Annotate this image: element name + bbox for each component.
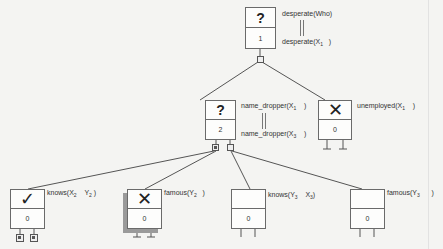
status-succeeded-icon: ✓ [11, 190, 44, 209]
famous-y3-node[interactable]: 0 [350, 189, 385, 229]
unification-equals [300, 20, 304, 36]
status-unknown-icon: ? [246, 8, 275, 28]
connector-icon[interactable] [30, 234, 38, 242]
canvas-edge-divider [428, 0, 429, 249]
node-count: 0 [232, 209, 265, 228]
connector-icon[interactable] [16, 234, 24, 242]
unification-equals [262, 113, 266, 129]
goal-label: knows(X2 Y2 ) [47, 189, 96, 198]
status-empty [351, 190, 384, 209]
goal-label: famous(Y2 ) [164, 189, 205, 198]
head-label: name_dropper(X3 ) [241, 130, 306, 139]
node-count: 0 [351, 209, 384, 228]
node-count: 0 [319, 120, 351, 139]
goal-label: knows(Y3 X3) [268, 191, 315, 200]
status-unknown-icon: ? [206, 101, 235, 120]
famous-y2-node[interactable]: ✕ 0 [127, 189, 162, 229]
unemployed-node[interactable]: ✕ 0 [318, 100, 352, 140]
node-count: 2 [206, 120, 235, 139]
knows-y3-x3-node[interactable]: 0 [231, 189, 266, 229]
name-dropper-node[interactable]: ? 2 [205, 100, 236, 140]
status-empty [232, 190, 265, 209]
root-node[interactable]: ? 1 [245, 7, 276, 49]
goal-label: famous(Y3 ) [387, 189, 434, 198]
knows-x2-y2-node[interactable]: ✓ 0 [10, 189, 45, 229]
connector-icon[interactable] [257, 56, 264, 63]
connector-icon[interactable] [212, 144, 219, 151]
goal-label: unemployed(X1 ) [357, 102, 415, 111]
goal-label: name_dropper(X1 ) [241, 102, 306, 111]
status-failed-icon: ✕ [319, 101, 351, 120]
head-label: desperate(X1 ) [282, 38, 331, 47]
node-count: 1 [246, 28, 275, 48]
proof-tree-diagram: ? 1 desperate(Who) desperate(X1 ) ? 2 na… [0, 0, 443, 249]
node-count: 0 [128, 209, 161, 228]
goal-label: desperate(Who) [282, 10, 332, 17]
node-count: 0 [11, 209, 44, 228]
connector-icon[interactable] [227, 144, 234, 151]
status-failed-icon: ✕ [128, 190, 161, 209]
